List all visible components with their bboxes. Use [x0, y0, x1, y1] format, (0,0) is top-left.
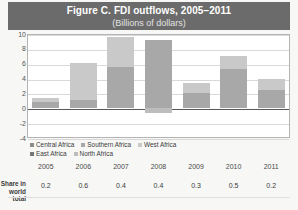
plot-area [27, 34, 290, 138]
share-value: 0.4 [102, 181, 140, 191]
legend-label: East Africa [36, 149, 67, 158]
y-axis-tick-label: 2 [2, 90, 26, 97]
y-axis-tick-label: 8 [2, 45, 26, 52]
legend-label: North Africa [80, 149, 113, 158]
figure-title-band: Figure C. FDI outflows, 2005–2011 (Billi… [8, 2, 290, 30]
legend-swatch-icon [81, 143, 85, 147]
x-axis-tick-label: 2011 [252, 162, 290, 172]
legend-swatch-icon [138, 143, 142, 147]
legend-item[interactable]: West Africa [138, 140, 176, 149]
legend-swatch-icon [30, 143, 34, 147]
legend-item[interactable]: East Africa [30, 149, 67, 158]
legend-label: Southern Africa [87, 140, 131, 149]
y-axis-tick-label: -2 [2, 120, 26, 127]
x-axis-tick-label: 2006 [65, 162, 103, 172]
page-title: Figure C. FDI outflows, 2005–2011 [8, 4, 290, 17]
share-value: 0.4 [140, 181, 178, 191]
legend-row: Central AfricaSouthern AfricaWest Africa [30, 140, 230, 149]
footer-divider [8, 197, 290, 198]
share-value: 0.2 [252, 181, 290, 191]
share-row-label-line2: world total [0, 188, 26, 203]
y-axis-tick-label: 0 [2, 105, 26, 112]
share-value: 0.6 [65, 181, 103, 191]
chart-legend: Central AfricaSouthern AfricaWest Africa… [30, 140, 230, 158]
x-axis-tick-label: 2008 [140, 162, 178, 172]
x-axis-tick-label: 2010 [215, 162, 253, 172]
gridline [28, 94, 289, 95]
x-axis-tick-label: 2005 [27, 162, 65, 172]
share-row-label-line1: Share in [0, 180, 26, 188]
gridline [28, 65, 289, 66]
share-value: 0.5 [215, 181, 253, 191]
legend-row: East AfricaNorth Africa [30, 149, 230, 158]
share-row-label: Share in world total [0, 180, 26, 203]
share-value: 0.2 [27, 181, 65, 191]
x-axis-tick-label: 2009 [177, 162, 215, 172]
gridline [28, 50, 289, 51]
gridline [28, 80, 289, 81]
y-axis-tick-label: 10 [2, 31, 26, 38]
y-axis: 1086420-2-4 [0, 34, 26, 138]
legend-item[interactable]: Central Africa [30, 140, 74, 149]
y-axis-tick-label: -4 [2, 135, 26, 142]
share-row-values: 0.20.60.40.40.30.50.2 [27, 181, 290, 193]
legend-label: Central Africa [36, 140, 74, 149]
y-axis-tick-label: 4 [2, 75, 26, 82]
legend-item[interactable]: North Africa [74, 149, 113, 158]
y-axis-tick-label: 6 [2, 60, 26, 67]
x-axis: 2005200620072008200920102011 [27, 162, 290, 174]
share-value: 0.3 [177, 181, 215, 191]
zero-line [28, 109, 289, 110]
legend-swatch-icon [30, 152, 34, 156]
legend-item[interactable]: Southern Africa [81, 140, 131, 149]
figure-container: Figure C. FDI outflows, 2005–2011 (Billi… [0, 0, 298, 210]
gridline [28, 124, 289, 125]
gridline [28, 35, 289, 36]
legend-label: West Africa [144, 140, 176, 149]
legend-swatch-icon [74, 152, 78, 156]
x-axis-tick-label: 2007 [102, 162, 140, 172]
figure-subtitle: (Billions of dollars) [8, 17, 290, 29]
